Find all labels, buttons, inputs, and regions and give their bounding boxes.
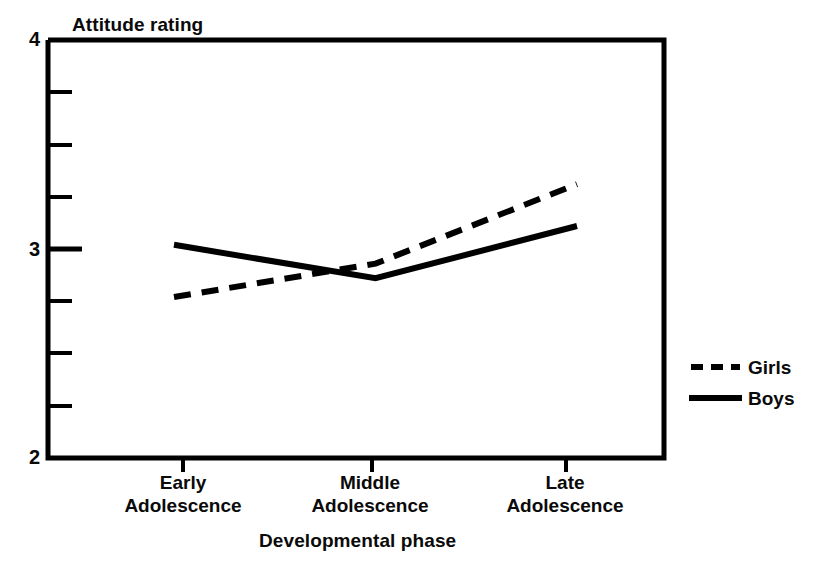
y-tick-label-4: 4: [14, 28, 40, 51]
x-tick-label-middle-line2: Adolescence: [265, 494, 475, 517]
legend: [689, 367, 742, 398]
x-tick-label-middle: Middle Adolescence: [265, 471, 475, 517]
x-tick-label-late: Late Adolescence: [460, 471, 670, 517]
x-tick-label-early: Early Adolescence: [78, 471, 288, 517]
chart-figure: Attitude rating Developmental phase 4 3 …: [0, 0, 813, 577]
x-tick-label-late-line1: Late: [460, 471, 670, 494]
legend-label-girls: Girls: [748, 357, 791, 379]
y-tick-label-3: 3: [14, 238, 40, 261]
x-tick-label-late-line2: Adolescence: [460, 494, 670, 517]
x-axis-title: Developmental phase: [259, 530, 456, 552]
y-axis-ticks: [48, 92, 82, 406]
x-tick-label-middle-line1: Middle: [265, 471, 475, 494]
legend-label-boys: Boys: [748, 388, 794, 410]
x-tick-label-early-line1: Early: [78, 471, 288, 494]
x-tick-label-early-line2: Adolescence: [78, 494, 288, 517]
series-line-boys: [174, 226, 577, 278]
y-tick-label-2: 2: [14, 446, 40, 469]
plot-border: [48, 40, 664, 458]
plot-frame: [48, 40, 664, 458]
y-axis-title: Attitude rating: [72, 14, 203, 36]
